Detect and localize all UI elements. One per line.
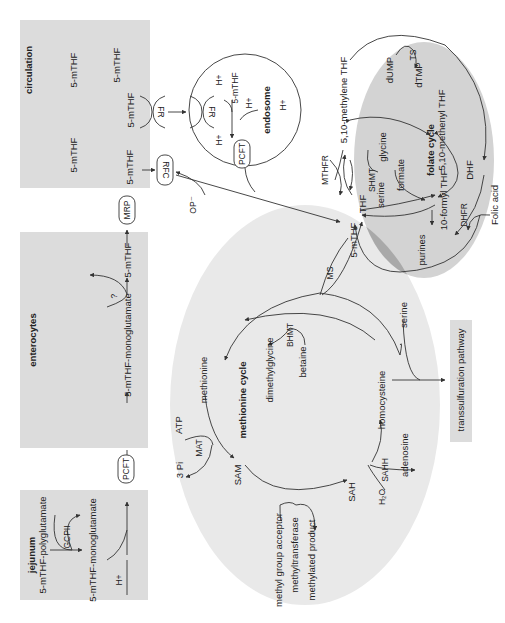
proton: H+ (278, 99, 288, 110)
circulation-label: 5-mTHF (68, 137, 79, 172)
enterocytes-title: enterocytes (27, 313, 38, 366)
node-serine-methionine: serine (398, 302, 409, 328)
endosome-pcft-label: PCFT (237, 143, 247, 165)
node-methenyl-thf: 5,10-methenyl THF (436, 89, 447, 170)
enzyme-mthfr: MTHFR (320, 155, 330, 185)
enzyme-methyltransferase: methyltransferase (289, 517, 300, 593)
node-methylene-thf: 5,10-methylene THF (338, 57, 349, 144)
mrp-label: MRP (122, 200, 132, 219)
endosome-substrate: 5-mTHF (230, 72, 240, 103)
endosome-title: endosome (261, 86, 272, 134)
enzyme-sahh: SAHH (380, 458, 390, 482)
fr-label: FR (156, 106, 166, 117)
node-dump: dUMP (384, 57, 395, 83)
intestinal-pcft-label: PCFT (121, 458, 131, 480)
enzyme-bhmt: BHMT (285, 323, 295, 347)
node-formate: formate (395, 159, 406, 191)
enzyme-mat: MAT (194, 439, 204, 456)
transsulfuration-label: transsulfuration pathway (455, 328, 466, 431)
node-dhf: DHF (464, 160, 475, 180)
node-sah: SAH (346, 482, 357, 502)
folate-methionine-diagram: circulation 5-mTHF 5-mTHF 5-mTHF 5-mTHF … (0, 0, 505, 623)
circulation-label: 5-mTHF (125, 92, 136, 127)
node-sam: SAM (232, 465, 243, 486)
node-methyl-acceptor: methyl group acceptor (273, 513, 284, 607)
node-adenosine: adenosine (399, 433, 410, 477)
jejunum-title: jejunum (26, 537, 37, 574)
monoglutamate: 5-mTHF-monoglutamate (87, 498, 98, 601)
node-pi: 3 Pi (174, 462, 185, 478)
polyglutamate: 5-mTHF-polyglutamate (37, 496, 48, 593)
node-betaine: betaine (297, 346, 308, 377)
node-glycine: glycine (377, 132, 388, 162)
circulation-title: circulation (23, 46, 34, 94)
endosome-fr-label: FR (207, 106, 217, 117)
circulation-label: 5-mTHF (68, 52, 79, 87)
proton: H+ (214, 74, 224, 85)
enzyme-dhfr: DHFR (459, 203, 469, 227)
proton: H+ (214, 134, 224, 145)
node-atp: ATP (173, 416, 184, 434)
proton: H+ (244, 97, 254, 108)
enterocytes-product: 5-mTHF (122, 242, 133, 277)
node-homocysteine: homocysteine (376, 371, 387, 430)
methionine-cycle-title: methionine cycle (237, 361, 248, 438)
node-dtmp: dTMP (413, 62, 424, 87)
jejunum-proton: H+ (114, 574, 124, 585)
circulation-label: 5-mTHF (124, 149, 135, 184)
gcpii-label: GCPII (62, 525, 72, 548)
enterocytes-substrate: 5-mTHF-monoglutamate (122, 293, 133, 396)
rfc-label: RFC (161, 161, 171, 178)
node-thf: THF (357, 195, 368, 214)
unknown-step: ? (109, 293, 119, 298)
op-label: OP⁻ (188, 196, 198, 213)
node-methionine: methionine (198, 357, 209, 403)
node-methylated-product: methylated product (306, 519, 317, 600)
enzyme-ms: MS (325, 266, 335, 279)
node-formyl-thf: 10-formyl THF (438, 170, 449, 231)
folic-acid: Folic acid (489, 185, 500, 225)
node-h2o: H₂O (377, 489, 387, 505)
node-dimethylglycine: dimethylglycine (264, 338, 275, 403)
folate-cycle-title: folate cycle (425, 124, 436, 176)
node-purines: purines (416, 234, 427, 265)
circulation-label: 5-mTHF (111, 47, 122, 82)
